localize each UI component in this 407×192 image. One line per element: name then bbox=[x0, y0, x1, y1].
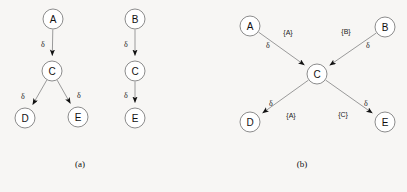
node-label: C bbox=[313, 69, 320, 80]
graph-node-C[interactable]: C bbox=[307, 64, 327, 84]
node-label: E bbox=[132, 113, 139, 124]
node-label: D bbox=[21, 113, 28, 124]
graph-node-B[interactable]: B bbox=[125, 9, 145, 29]
node-label: A bbox=[247, 21, 254, 32]
edge-set-label: {A} bbox=[283, 29, 293, 37]
diagram-canvas: ACDEBCEABCDE δδδδδδ{A}δ{B}δ{A}δ{C} (a) (… bbox=[0, 0, 407, 192]
graph-node-A[interactable]: A bbox=[43, 9, 63, 29]
edge-C-to-E bbox=[57, 80, 70, 103]
graph-node-C[interactable]: C bbox=[125, 61, 145, 81]
edge-C-to-D bbox=[263, 80, 309, 113]
panel-caption-a: (a) bbox=[75, 159, 85, 169]
edge-delta-label: δ bbox=[124, 91, 128, 100]
graph-node-B[interactable]: B bbox=[375, 17, 395, 37]
edge-set-label: {B} bbox=[341, 28, 351, 36]
node-label: C bbox=[131, 66, 138, 77]
edge-delta-label: δ bbox=[41, 40, 45, 49]
edge-delta-label: δ bbox=[366, 41, 370, 50]
edge-A-to-C bbox=[52, 29, 53, 55]
edge-C-to-D bbox=[33, 80, 47, 104]
node-label: D bbox=[246, 117, 253, 128]
node-label: B bbox=[382, 22, 389, 33]
graph-node-A[interactable]: A bbox=[240, 16, 260, 36]
graph-node-D[interactable]: D bbox=[240, 112, 260, 132]
node-label: B bbox=[132, 14, 139, 25]
node-label: E bbox=[75, 112, 82, 123]
graph-node-C[interactable]: C bbox=[42, 61, 62, 81]
graph-node-E[interactable]: E bbox=[68, 107, 88, 127]
edge-delta-label: δ bbox=[21, 92, 25, 101]
edge-delta-label: δ bbox=[266, 41, 270, 50]
node-label: A bbox=[50, 14, 57, 25]
panel-caption-b: (b) bbox=[297, 159, 308, 169]
edge-delta-label: δ bbox=[269, 99, 273, 108]
edge-delta-label: δ bbox=[77, 91, 81, 100]
edge-set-label: {C} bbox=[338, 111, 348, 119]
figure-container: ACDEBCEABCDE δδδδδδ{A}δ{B}δ{A}δ{C} (a) (… bbox=[0, 0, 407, 192]
graph-node-E[interactable]: E bbox=[125, 108, 145, 128]
node-label: C bbox=[48, 66, 55, 77]
edge-delta-label: δ bbox=[124, 40, 128, 49]
graph-node-E[interactable]: E bbox=[375, 112, 395, 132]
edge-C-to-E bbox=[326, 80, 373, 113]
graph-node-D[interactable]: D bbox=[15, 108, 35, 128]
edge-delta-label: δ bbox=[364, 99, 368, 108]
edge-set-label: {A} bbox=[286, 112, 296, 120]
node-label: E bbox=[382, 117, 389, 128]
